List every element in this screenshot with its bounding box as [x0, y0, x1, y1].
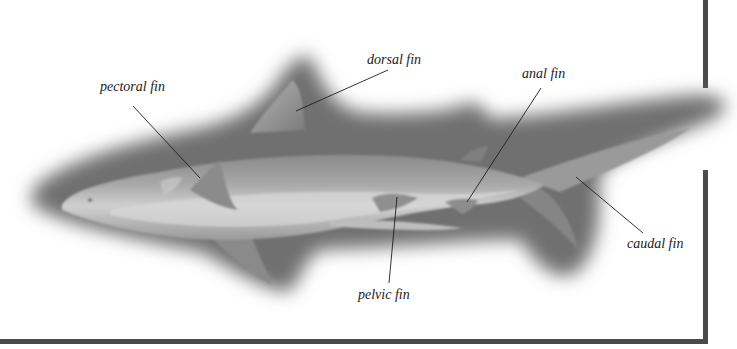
caudal-fin-label: caudal fin	[627, 237, 683, 251]
eye-shape	[88, 199, 92, 202]
dorsal-fin-label: dorsal fin	[367, 53, 421, 67]
shark-anatomy-diagram: pectoral fin dorsal fin anal fin pelvic …	[0, 0, 737, 349]
anal-fin-label: anal fin	[522, 67, 565, 81]
pelvic-fin-label: pelvic fin	[358, 288, 410, 302]
frame-right-border-top	[703, 0, 708, 88]
pectoral-fin-label: pectoral fin	[100, 80, 165, 94]
frame-bottom-border	[0, 339, 708, 344]
frame-right-border-bottom	[703, 170, 708, 344]
